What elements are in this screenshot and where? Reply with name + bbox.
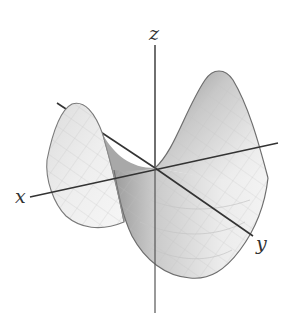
saddle-front-bowl bbox=[114, 168, 268, 278]
z-axis-label: z bbox=[148, 22, 160, 44]
saddle-surface-figure: z x y bbox=[0, 0, 293, 328]
y-axis-label: y bbox=[255, 232, 267, 254]
x-axis-label: x bbox=[15, 185, 26, 207]
saddle-plot: z x y bbox=[0, 0, 293, 328]
